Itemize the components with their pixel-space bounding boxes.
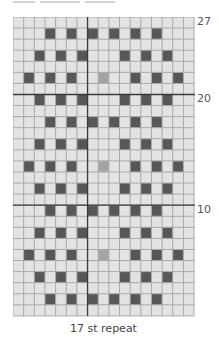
dark-stitch-cell xyxy=(120,183,131,194)
dark-stitch-cell xyxy=(77,227,88,238)
dark-stitch-cell xyxy=(162,272,173,283)
dark-stitch-cell xyxy=(173,72,184,83)
dark-stitch-cell xyxy=(34,139,45,150)
dark-stitch-cell xyxy=(34,183,45,194)
dark-stitch-cell xyxy=(24,161,35,172)
dark-stitch-cell xyxy=(66,205,77,216)
dark-stitch-cell xyxy=(120,227,131,238)
dark-stitch-cell xyxy=(34,272,45,283)
dark-stitch-cell xyxy=(24,72,35,83)
dark-stitch-cell xyxy=(130,161,141,172)
dark-stitch-cell xyxy=(109,117,120,128)
dark-stitch-cell xyxy=(77,183,88,194)
repeat-caption: 17 st repeat xyxy=(0,322,207,335)
knitting-chart-grid xyxy=(13,17,195,317)
row-number-label: 20 xyxy=(197,93,211,105)
chart-title-clipped xyxy=(13,0,153,4)
dark-stitch-cell xyxy=(130,294,141,305)
dark-stitch-cell xyxy=(151,28,162,39)
dark-stitch-cell xyxy=(24,249,35,260)
dark-stitch-cell xyxy=(34,227,45,238)
dark-stitch-cell xyxy=(34,94,45,105)
dark-stitch-cell xyxy=(88,294,99,305)
dark-stitch-cell xyxy=(66,294,77,305)
dark-stitch-cell xyxy=(120,50,131,61)
dark-stitch-cell xyxy=(173,249,184,260)
dark-stitch-cell xyxy=(88,205,99,216)
dark-stitch-cell xyxy=(56,183,67,194)
dark-stitch-cell xyxy=(162,139,173,150)
dark-stitch-cell xyxy=(88,117,99,128)
dark-stitch-cell xyxy=(45,117,56,128)
dark-stitch-cell xyxy=(77,94,88,105)
dark-stitch-cell xyxy=(45,294,56,305)
dark-stitch-cell xyxy=(120,139,131,150)
dark-stitch-cell xyxy=(77,50,88,61)
dark-stitch-cell xyxy=(45,72,56,83)
dark-stitch-cell xyxy=(56,227,67,238)
dark-stitch-cell xyxy=(130,72,141,83)
dark-stitch-cell xyxy=(130,249,141,260)
dark-stitch-cell xyxy=(45,205,56,216)
dark-stitch-cell xyxy=(66,161,77,172)
dark-stitch-cell xyxy=(34,50,45,61)
dark-stitch-cell xyxy=(77,272,88,283)
dark-stitch-cell xyxy=(109,294,120,305)
dark-stitch-cell xyxy=(151,72,162,83)
dark-stitch-cell xyxy=(66,117,77,128)
grey-stitch-cell xyxy=(98,72,109,83)
dark-stitch-cell xyxy=(151,161,162,172)
dark-stitch-cell xyxy=(151,205,162,216)
dark-stitch-cell xyxy=(162,183,173,194)
dark-stitch-cell xyxy=(109,28,120,39)
dark-stitch-cell xyxy=(56,272,67,283)
dark-stitch-cell xyxy=(88,28,99,39)
dark-stitch-cell xyxy=(151,249,162,260)
dark-stitch-cell xyxy=(151,294,162,305)
dark-stitch-cell xyxy=(66,72,77,83)
grey-stitch-cell xyxy=(98,249,109,260)
dark-stitch-cell xyxy=(151,117,162,128)
dark-stitch-cell xyxy=(141,272,152,283)
dark-stitch-cell xyxy=(109,205,120,216)
dark-stitch-cell xyxy=(120,272,131,283)
dark-stitch-cell xyxy=(130,28,141,39)
dark-stitch-cell xyxy=(141,50,152,61)
dark-stitch-cell xyxy=(77,139,88,150)
dark-stitch-cell xyxy=(162,227,173,238)
dark-stitch-cell xyxy=(162,50,173,61)
dark-stitch-cell xyxy=(45,249,56,260)
dark-stitch-cell xyxy=(130,117,141,128)
row-number-label: 10 xyxy=(197,204,211,216)
grey-stitch-cell xyxy=(98,161,109,172)
dark-stitch-cell xyxy=(141,94,152,105)
dark-stitch-cell xyxy=(45,28,56,39)
dark-stitch-cell xyxy=(130,205,141,216)
dark-stitch-cell xyxy=(56,94,67,105)
dark-stitch-cell xyxy=(162,94,173,105)
dark-stitch-cell xyxy=(45,161,56,172)
dark-stitch-cell xyxy=(66,249,77,260)
dark-stitch-cell xyxy=(120,94,131,105)
row-number-label: 27 xyxy=(197,16,211,28)
dark-stitch-cell xyxy=(56,139,67,150)
dark-stitch-cell xyxy=(173,161,184,172)
dark-stitch-cell xyxy=(141,227,152,238)
dark-stitch-cell xyxy=(141,183,152,194)
dark-stitch-cell xyxy=(56,50,67,61)
dark-stitch-cell xyxy=(66,28,77,39)
dark-stitch-cell xyxy=(141,139,152,150)
